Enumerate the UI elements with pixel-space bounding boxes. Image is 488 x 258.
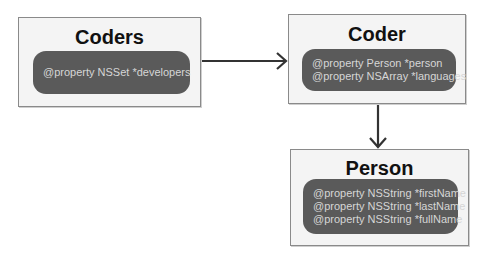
property-lastname: @property NSString *lastName bbox=[313, 200, 458, 213]
arrow-coders-to-coder bbox=[201, 53, 286, 69]
property-person: @property Person *person bbox=[312, 57, 456, 70]
property-developers: @property NSSet *developers bbox=[43, 66, 190, 79]
properties-pill-coder: @property Person *person @property NSArr… bbox=[302, 49, 456, 91]
property-languages: @property NSArray *languages bbox=[312, 70, 456, 83]
class-title-coder: Coder bbox=[289, 23, 465, 46]
arrow-coder-to-person bbox=[370, 104, 386, 147]
class-title-coders: Coders bbox=[19, 26, 200, 49]
class-box-coder[interactable]: Coder @property Person *person @property… bbox=[288, 14, 466, 104]
class-box-person[interactable]: Person @property NSString *firstName @pr… bbox=[290, 149, 469, 246]
property-firstname: @property NSString *firstName bbox=[313, 187, 458, 200]
properties-pill-person: @property NSString *firstName @property … bbox=[303, 179, 458, 234]
class-box-coders[interactable]: Coders @property NSSet *developers bbox=[18, 17, 201, 107]
property-fullname: @property NSString *fullName bbox=[313, 213, 458, 226]
properties-pill-coders: @property NSSet *developers bbox=[33, 51, 190, 94]
class-title-person: Person bbox=[291, 157, 468, 180]
